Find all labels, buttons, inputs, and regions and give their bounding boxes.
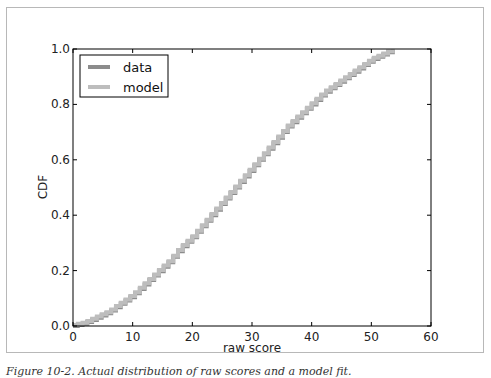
x-tick-label: 20 bbox=[185, 330, 200, 344]
y-tick-label: 1.0 bbox=[51, 42, 70, 56]
x-tick-label: 10 bbox=[125, 330, 140, 344]
legend-label-data: data bbox=[123, 60, 152, 75]
y-tick-label: 0.8 bbox=[51, 97, 70, 111]
y-tick-label: 0.0 bbox=[51, 319, 70, 333]
x-tick-label: 0 bbox=[69, 330, 77, 344]
x-tick-label: 40 bbox=[304, 330, 319, 344]
legend-label-model: model bbox=[123, 80, 163, 95]
x-tick-label: 50 bbox=[364, 330, 379, 344]
y-tick-label: 0.2 bbox=[51, 264, 70, 278]
y-tick-label: 0.4 bbox=[51, 208, 70, 222]
figure-caption: Figure 10-2. Actual distribution of raw … bbox=[6, 365, 351, 378]
x-axis-label: raw score bbox=[223, 341, 281, 355]
x-tick-label: 60 bbox=[423, 330, 438, 344]
legend: data model bbox=[80, 55, 168, 97]
y-axis-label: CDF bbox=[36, 175, 50, 200]
y-tick-label: 0.6 bbox=[51, 153, 70, 167]
